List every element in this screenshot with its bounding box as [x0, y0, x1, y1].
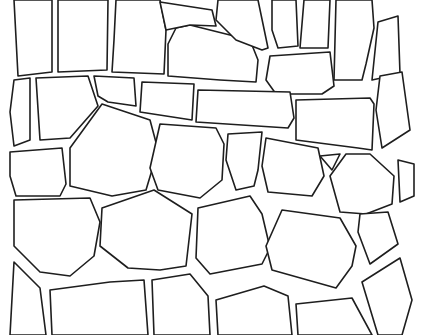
stone-row2-5 — [196, 90, 294, 128]
stone-top-6 — [272, 0, 298, 48]
stone-row3-3 — [150, 124, 224, 198]
stone-top-2 — [58, 0, 108, 72]
stone-row3-1 — [10, 148, 66, 196]
stone-top-10 — [266, 52, 334, 94]
stone-top-3 — [112, 0, 166, 74]
stone-row3-5 — [262, 138, 324, 196]
stone-top-7 — [300, 0, 330, 48]
stone-row5-2 — [50, 280, 148, 335]
stone-top-1 — [14, 0, 52, 76]
stone-wall-drawing — [0, 0, 428, 335]
stone-row2-6 — [296, 98, 374, 150]
stone-row2-1 — [10, 78, 30, 146]
stone-row3-8 — [398, 160, 414, 202]
